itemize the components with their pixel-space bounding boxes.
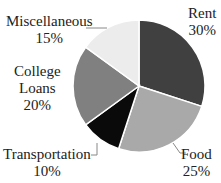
label-food-pct: 25% bbox=[181, 163, 212, 180]
label-college-loans-line1: College bbox=[14, 63, 61, 80]
label-food: Food 25% bbox=[181, 146, 212, 180]
label-rent-name: Rent bbox=[188, 5, 216, 22]
label-miscellaneous-pct: 15% bbox=[6, 30, 93, 47]
label-transportation-name: Transportation bbox=[3, 146, 91, 163]
label-miscellaneous: Miscellaneous 15% bbox=[6, 13, 93, 47]
label-miscellaneous-name: Miscellaneous bbox=[6, 13, 93, 30]
label-college-loans: College Loans 20% bbox=[14, 63, 61, 114]
label-transportation-pct: 10% bbox=[3, 163, 91, 180]
label-college-loans-line2: Loans bbox=[14, 80, 61, 97]
label-college-loans-pct: 20% bbox=[14, 97, 61, 114]
label-transportation: Transportation 10% bbox=[3, 146, 91, 180]
leader-line-transportation bbox=[91, 143, 97, 155]
label-food-name: Food bbox=[181, 146, 212, 163]
label-rent-pct: 30% bbox=[188, 22, 216, 39]
label-rent: Rent 30% bbox=[188, 5, 216, 39]
